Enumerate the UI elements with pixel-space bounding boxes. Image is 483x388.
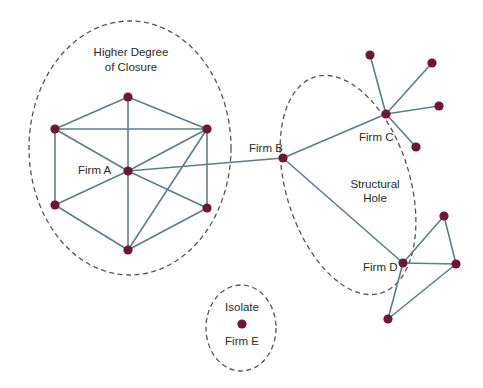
edge-d3-d2	[388, 264, 456, 319]
edge-a_top-a_ul	[55, 97, 128, 129]
node-a-ul	[50, 124, 59, 133]
structural-hole-label-line2: Hole	[363, 192, 387, 204]
closure-label-line2: of Closure	[105, 61, 157, 73]
firm-c-label: Firm C	[359, 131, 394, 143]
firm-e-label: Firm E	[225, 335, 259, 347]
edge-c-c1	[370, 55, 386, 114]
node-c2	[427, 58, 436, 67]
structural-hole-boundary	[256, 59, 441, 311]
node-e	[237, 319, 246, 328]
network-diagram: Higher Degree of Closure Structural Hole…	[0, 0, 483, 388]
node-c	[381, 109, 390, 118]
edge-d-d1	[403, 216, 444, 263]
node-a-ur	[202, 124, 211, 133]
edge-c-c2	[386, 63, 432, 114]
edge-b-d	[283, 158, 403, 263]
edge-a_top-a_ur	[128, 97, 207, 129]
closure-label-line1: Higher Degree	[94, 46, 169, 58]
node-d2	[451, 259, 460, 268]
node-d	[398, 258, 407, 267]
node-d3	[383, 314, 392, 323]
firm-b-label: Firm B	[249, 142, 283, 154]
edge-a-a_lr	[128, 171, 207, 208]
edge-c-c3	[386, 106, 439, 114]
node-a	[123, 166, 132, 175]
firm-a-label: Firm A	[78, 164, 112, 176]
node-b	[278, 153, 287, 162]
node-a-bot	[123, 245, 132, 254]
edge-a-b	[128, 158, 283, 171]
node-c1	[365, 50, 374, 59]
node-a-lr	[202, 203, 211, 212]
node-a-top	[123, 92, 132, 101]
node-d1	[439, 211, 448, 220]
edge-d1-d2	[444, 216, 456, 264]
edge-a_lr-a_bot	[128, 208, 207, 250]
node-a-ll	[50, 200, 59, 209]
edge-a-a_ll	[55, 171, 128, 205]
firm-d-label: Firm D	[363, 261, 398, 273]
node-c3	[434, 101, 443, 110]
node-c4	[411, 142, 420, 151]
structural-hole-label-line1: Structural	[350, 178, 399, 190]
closure-boundary	[29, 21, 231, 275]
edge-a_ll-a_bot	[55, 205, 128, 250]
isolate-label: Isolate	[225, 301, 259, 313]
edge-d-d2	[403, 263, 456, 264]
